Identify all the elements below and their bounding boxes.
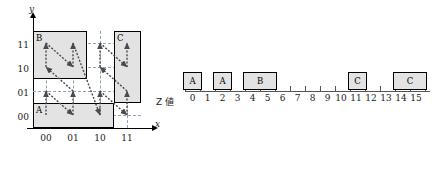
number-line-tick-13 <box>380 86 381 91</box>
y-axis-label: y <box>29 4 34 14</box>
zvalue-number-0: 0 <box>186 93 200 103</box>
x-tick-label-2: 10 <box>90 133 110 143</box>
number-line-tick-7 <box>290 86 291 91</box>
zvalue-number-9: 9 <box>321 93 335 103</box>
zvalue-box-C-11: C <box>348 72 367 90</box>
region-C-label: C <box>117 34 124 43</box>
region-B: B <box>33 31 87 79</box>
zvalue-number-4: 4 <box>246 93 260 103</box>
y-tick-label-0: 11 <box>13 40 29 50</box>
number-line-tick-8 <box>305 86 306 91</box>
zvalue-number-12: 12 <box>364 93 378 103</box>
number-line-tick-9 <box>320 86 321 91</box>
x-tick-label-1: 01 <box>63 133 83 143</box>
number-line-tick-10 <box>335 86 336 91</box>
region-C: C <box>114 31 141 103</box>
zvalue-number-5: 5 <box>261 93 275 103</box>
zorder-grid-panel: y x 11 10 01 00 00 01 10 11 B <box>0 0 180 169</box>
zvalue-box-A-0: A <box>183 72 202 90</box>
zvalue-number-1: 1 <box>201 93 215 103</box>
zvalue-box-A-2: A <box>213 72 232 90</box>
zvalue-number-2: 2 <box>216 93 230 103</box>
zvalue-number-14: 14 <box>394 93 408 103</box>
y-tick-label-3: 00 <box>13 112 29 122</box>
zvalue-number-11: 11 <box>349 93 363 103</box>
zvalue-caption: Z 値 <box>156 95 174 108</box>
zvalue-number-3: 3 <box>231 93 245 103</box>
zvalue-box-C-14: C <box>393 72 427 90</box>
x-tick-label-3: 11 <box>117 133 137 143</box>
y-tick-label-1: 10 <box>13 64 29 74</box>
region-B-label: B <box>36 34 42 43</box>
zvalue-number-8: 8 <box>306 93 320 103</box>
zvalue-box-B-4: B <box>243 72 277 90</box>
zvalue-number-7: 7 <box>291 93 305 103</box>
number-line <box>185 91 430 92</box>
x-axis-line <box>27 128 153 129</box>
zvalue-number-13: 13 <box>379 93 393 103</box>
region-A-label: A <box>36 106 42 115</box>
zvalue-number-6: 6 <box>276 93 290 103</box>
zvalue-number-10: 10 <box>334 93 348 103</box>
x-axis-label: x <box>155 119 160 129</box>
grid-plot-area: B A C <box>33 31 141 128</box>
zvalue-strip-panel: Z 値 0 1 2 3 4 5 6 7 8 9 10 11 12 13 1 <box>180 0 436 169</box>
y-tick-label-2: 01 <box>13 88 29 98</box>
figure-root: y x 11 10 01 00 00 01 10 11 B <box>0 0 436 169</box>
x-tick-label-0: 00 <box>36 133 56 143</box>
zvalue-number-15: 15 <box>409 93 423 103</box>
region-A: A <box>33 103 114 128</box>
